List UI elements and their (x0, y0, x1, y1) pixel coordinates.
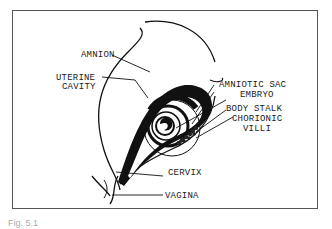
label-amnion: AMNION (81, 50, 115, 60)
figure-caption: Fig. 5.1 (8, 218, 38, 228)
label-chorionic-villi-line2: VILLI (243, 124, 271, 134)
label-body-stalk: BODY STALK (226, 104, 282, 114)
label-amniotic-sac: AMNIOTIC SAC (219, 80, 286, 90)
label-uterine-cavity-line2: CAVITY (62, 82, 96, 92)
label-chorionic-villi-line1: CHORIONIC (232, 114, 282, 124)
label-embryo: EMBRYO (240, 90, 274, 100)
label-cervix: CERVIX (168, 168, 202, 178)
label-vagina: VAGINA (165, 191, 199, 201)
